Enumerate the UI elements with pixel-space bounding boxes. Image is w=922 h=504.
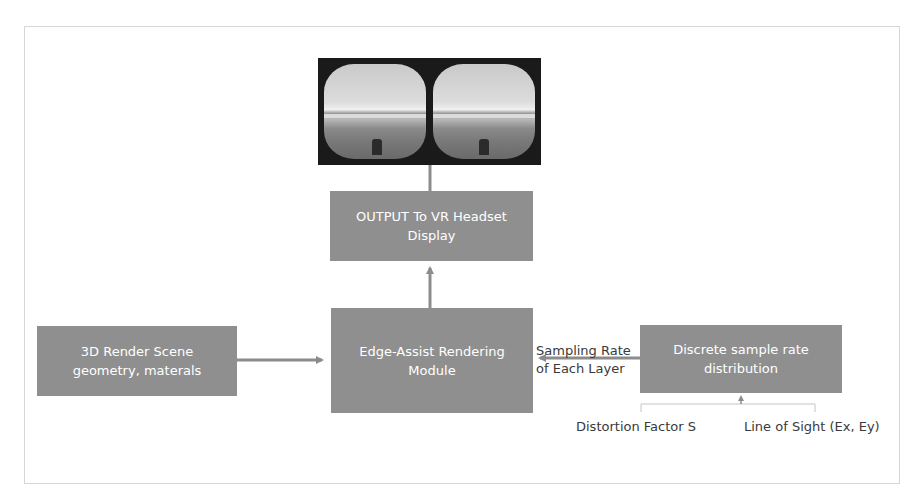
inputs-bracket: [641, 404, 815, 412]
discrete-sample-rate-box: Discrete sample rate distribution: [640, 325, 842, 393]
output-vr-headset-box: OUTPUT To VR Headset Display: [330, 191, 533, 261]
sampling-rate-label: Sampling Rate of Each Layer: [536, 342, 631, 378]
render-scene-box: 3D Render Scene geometry, materals: [37, 326, 237, 396]
edge-assist-rendering-box: Edge-Assist Rendering Module: [331, 308, 533, 413]
distortion-factor-label: Distortion Factor S: [576, 418, 696, 436]
line-of-sight-label: Line of Sight (Ex, Ey): [744, 418, 880, 436]
